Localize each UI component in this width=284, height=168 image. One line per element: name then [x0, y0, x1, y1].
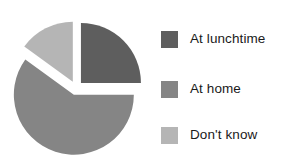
legend-item-at-home[interactable]: At home — [161, 78, 241, 100]
legend-swatch-at-home — [161, 81, 178, 98]
legend-swatch-at-lunchtime — [161, 31, 178, 48]
pie-chart-figure: At lunchtime At home Don't know — [0, 0, 284, 168]
chart-legend: At lunchtime At home Don't know — [161, 0, 284, 168]
legend-item-dont-know[interactable]: Don't know — [161, 124, 257, 146]
legend-swatch-dont-know — [161, 127, 178, 144]
pie-slice-at-lunchtime[interactable] — [81, 23, 141, 83]
legend-item-at-lunchtime[interactable]: At lunchtime — [161, 28, 265, 50]
legend-label-at-lunchtime: At lunchtime — [190, 32, 265, 46]
pie-chart-svg — [0, 0, 155, 168]
legend-label-dont-know: Don't know — [190, 128, 257, 142]
legend-label-at-home: At home — [190, 82, 241, 96]
pie-chart-plot-area — [0, 0, 155, 168]
